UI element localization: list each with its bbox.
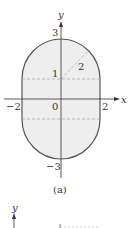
figure-caption: (a) <box>53 184 67 195</box>
y-tick-1: 1 <box>52 68 58 79</box>
y-axis-label: y <box>57 9 64 20</box>
second-y-axis-arrow-icon <box>12 213 16 219</box>
x-tick-0: 0 <box>52 101 58 112</box>
x-axis-label: x <box>121 94 127 105</box>
second-y-axis-label: y <box>11 202 18 213</box>
x-axis-arrow-icon <box>114 97 120 101</box>
y-tick-neg3: −3 <box>46 161 61 172</box>
y-tick-3: 3 <box>52 27 58 38</box>
radius-label: 2 <box>78 61 84 72</box>
y-axis-arrow-icon <box>59 21 63 27</box>
x-tick-neg2: −2 <box>6 101 21 112</box>
x-tick-2: 2 <box>102 101 108 112</box>
stadium-region-diagram: y x 3 1 2 −2 0 2 −3 (a) y <box>0 0 128 228</box>
